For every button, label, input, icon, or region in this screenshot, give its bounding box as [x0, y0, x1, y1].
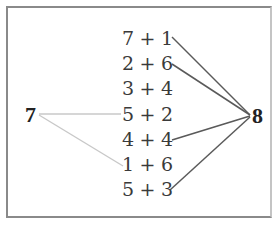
line-7-to-1plus6	[39, 115, 123, 166]
right-number: 8	[252, 104, 263, 128]
line-2plus6-to-8	[172, 64, 250, 115]
expression: 1 + 6	[122, 152, 174, 176]
expression: 5 + 3	[122, 177, 174, 201]
expression: 5 + 2	[122, 102, 174, 126]
expression: 3 + 4	[122, 76, 174, 100]
expression: 2 + 6	[122, 51, 174, 75]
expression: 4 + 4	[122, 127, 174, 151]
lines-to-7	[39, 114, 123, 166]
lines-to-8	[170, 37, 250, 190]
line-7plus1-to-8	[172, 37, 250, 115]
expression: 7 + 1	[122, 26, 174, 50]
left-number: 7	[25, 103, 36, 127]
